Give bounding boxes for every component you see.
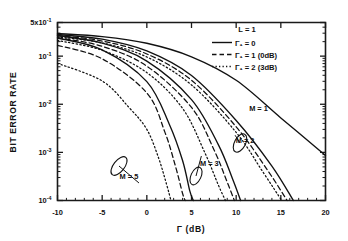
y-tick-label: 10-1: [38, 51, 51, 61]
data-curve: [58, 63, 171, 200]
bit-error-rate-chart: -10-505101520 5x10-110-110-210-310-4 Γ (…: [0, 0, 348, 241]
curve-annotation-label: M = 3: [200, 159, 219, 168]
x-tick-label: 15: [277, 208, 285, 217]
data-curve: [58, 34, 326, 156]
y-axis-tick-labels: 5x10-110-110-210-310-4: [30, 17, 51, 205]
x-tick-label: 10: [232, 208, 240, 217]
data-curve: [58, 36, 288, 201]
x-tick-label: 0: [145, 208, 149, 217]
x-tick-label: -10: [52, 208, 63, 217]
legend-label-2: Γ₁ = 2 (3dB): [235, 63, 278, 72]
x-tick-label: 20: [321, 208, 329, 217]
legend-header: L = 1: [238, 25, 256, 34]
curve-annotation-label: M = 1: [249, 104, 268, 113]
y-tick-label: 10-2: [38, 99, 51, 109]
y-tick-label: 10-4: [38, 195, 51, 205]
x-tick-label: -5: [99, 208, 106, 217]
y-tick-label: 5x10-1: [30, 17, 51, 27]
x-tick-label: 5: [189, 208, 193, 217]
legend: L = 1 Γ₁ = 0 Γ₁ = 1 (0dB) Γ₁ = 2 (3dB): [212, 25, 278, 72]
x-axis-tick-labels: -10-505101520: [52, 208, 329, 217]
y-tick-label: 10-3: [38, 147, 51, 157]
data-curve: [58, 38, 235, 201]
legend-label-1: Γ₁ = 1 (0dB): [235, 51, 278, 60]
figure-container: -10-505101520 5x10-110-110-210-310-4 Γ (…: [0, 0, 348, 241]
x-axis-title: Γ (dB): [177, 224, 205, 234]
data-curve: [58, 36, 241, 201]
legend-label-0: Γ₁ = 0: [235, 39, 256, 48]
y-axis-title: BIT ERROR RATE: [8, 72, 18, 153]
data-curves: [58, 34, 326, 201]
